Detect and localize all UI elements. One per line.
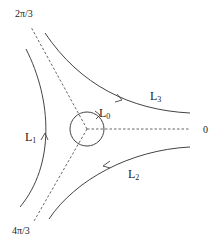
contour-L1 [20,49,46,207]
label-2pi-3: 2π/3 [15,8,33,19]
L2-arrow-icon [103,161,110,168]
label-4pi-3: 4π/3 [12,225,30,236]
ray-4pi-3 [34,129,87,221]
label-L0: L0 [99,106,110,121]
label-L1: L1 [25,130,36,145]
L1-arrow-icon [41,133,48,140]
label-0: 0 [203,124,208,135]
label-L2: L2 [128,167,139,182]
contour-diagram: 2π/3 4π/3 0 L0 L1 L2 L3 [0,0,223,244]
label-L3: L3 [150,89,161,104]
